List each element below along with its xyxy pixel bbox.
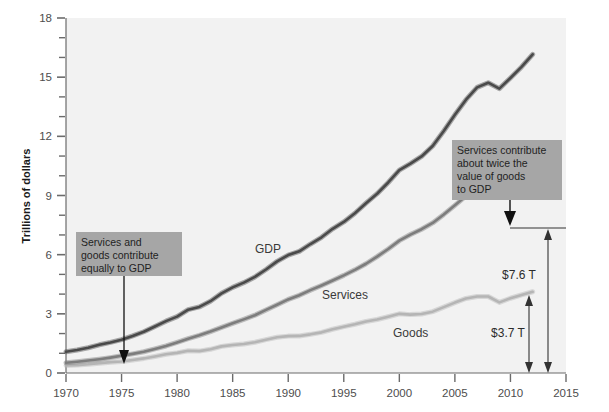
y-tick-label: 6 [46,249,52,261]
y-tick-label: 9 [46,190,52,202]
y-tick-label: 12 [39,130,52,142]
x-tick-label: 2010 [498,387,524,399]
x-tick-label: 2000 [387,387,413,399]
y-tick-label: 18 [39,12,52,24]
x-tick-label: 1995 [331,387,357,399]
y-tick-label: 0 [46,367,52,379]
left-callout-line-3: equally to GDP [81,262,152,274]
series-label-goods: Goods [393,326,428,340]
left-callout-line-2: goods contribute [81,249,159,261]
right-callout-line-3: value of goods [457,170,525,182]
x-tick-label: 1970 [53,387,79,399]
x-tick-label: 1990 [275,387,301,399]
right-callout-line-2: about twice the [457,157,528,169]
x-tick-label: 2005 [442,387,468,399]
y-axis-title: Trillions of dollars [20,149,32,244]
x-tick-label: 1980 [164,387,190,399]
goods-bracket-label: $3.7 T [491,326,525,340]
chart-figure: 0369121518 19701975198019851990199520002… [0,0,609,412]
y-tick-label: 15 [39,71,52,83]
x-tick-label: 1975 [109,387,135,399]
left-callout-line-1: Services and [81,236,142,248]
series-label-gdp: GDP [255,242,281,256]
right-callout-line-1: Services contribute [457,144,546,156]
series-label-services: Services [322,288,368,302]
x-tick-label: 2015 [553,387,579,399]
y-tick-label: 3 [46,308,52,320]
gdp-services-goods-line-chart: 0369121518 19701975198019851990199520002… [0,0,609,412]
services-bracket-label: $7.6 T [502,268,536,282]
right-callout-line-4: to GDP [457,183,491,195]
x-tick-label: 1985 [220,387,246,399]
